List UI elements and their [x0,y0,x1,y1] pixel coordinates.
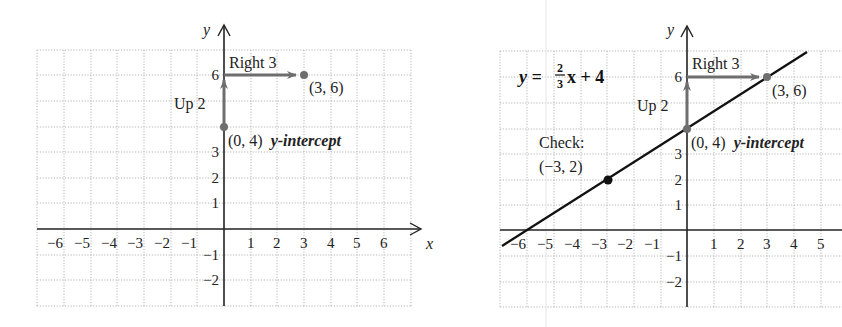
left-right-3-label: Right 3 [229,54,277,72]
right-point-3-6 [763,73,771,81]
svg-text:6: 6 [212,67,220,83]
svg-text:−6: −6 [47,235,63,251]
right-point-0-4-label: (0, 4) y-intercept [691,134,804,152]
check-title-label: Check: [539,134,584,151]
equation-label: y = 2 3 x + 4 [517,61,604,91]
svg-text:6: 6 [675,69,683,85]
check-point-label: (−3, 2) [539,158,583,176]
svg-text:−4: −4 [564,236,580,252]
svg-text:2: 2 [212,170,220,186]
svg-text:2: 2 [737,236,745,252]
svg-text:−5: −5 [74,235,90,251]
svg-text:3: 3 [212,144,220,160]
check-point [604,176,613,185]
svg-text:x + 4: x + 4 [567,67,604,87]
right-graph: y −6 −5 −4 −3 −2 −1 1 2 3 4 5 1 2 3 6 −1… [500,0,842,327]
svg-text:3: 3 [300,235,308,251]
svg-text:5: 5 [817,236,825,252]
left-x-axis-label: x [425,235,433,252]
right-up-2-label: Up 2 [637,97,669,115]
svg-text:4: 4 [790,236,798,252]
svg-text:−1: −1 [644,236,660,252]
right-right-3-label: Right 3 [692,55,740,73]
svg-text:−2: −2 [666,274,682,290]
svg-text:1: 1 [710,236,718,252]
svg-text:−6: −6 [510,236,526,252]
svg-text:2: 2 [557,61,563,75]
svg-text:2: 2 [273,235,281,251]
svg-text:y =: y = [517,67,542,87]
right-point-intercept [683,125,691,133]
left-point-3-6 [300,71,308,79]
svg-text:1: 1 [212,195,220,211]
svg-text:−2: −2 [203,272,219,288]
svg-text:−2: −2 [617,236,633,252]
svg-text:1: 1 [247,235,255,251]
right-y-axis-label: y [665,21,675,39]
svg-text:5: 5 [353,235,361,251]
svg-text:−2: −2 [154,235,170,251]
left-point-intercept [220,123,228,131]
svg-text:−4: −4 [101,235,117,251]
svg-text:4: 4 [327,235,335,251]
svg-text:1: 1 [675,197,683,213]
svg-text:−3: −3 [127,235,143,251]
svg-text:3: 3 [763,236,771,252]
svg-text:3: 3 [557,77,563,91]
svg-text:2: 2 [675,172,683,188]
svg-text:−3: −3 [591,236,607,252]
figure: y x −6 −5 −4 −3 −2 −1 1 2 3 4 5 6 1 2 3 … [0,0,842,327]
left-point-3-6-label: (3, 6) [309,79,344,97]
left-point-0-4-label: (0, 4) y-intercept [228,132,341,150]
left-up-2-label: Up 2 [174,95,206,113]
svg-text:6: 6 [380,235,388,251]
svg-text:−1: −1 [181,235,197,251]
left-y-axis-label: y [201,21,211,39]
svg-text:−1: −1 [666,248,682,264]
svg-text:3: 3 [675,146,683,162]
svg-text:−5: −5 [537,236,553,252]
left-graph: y x −6 −5 −4 −3 −2 −1 1 2 3 4 5 6 1 2 3 … [37,21,433,306]
right-point-3-6-label: (3, 6) [772,82,807,100]
svg-text:−1: −1 [203,247,219,263]
